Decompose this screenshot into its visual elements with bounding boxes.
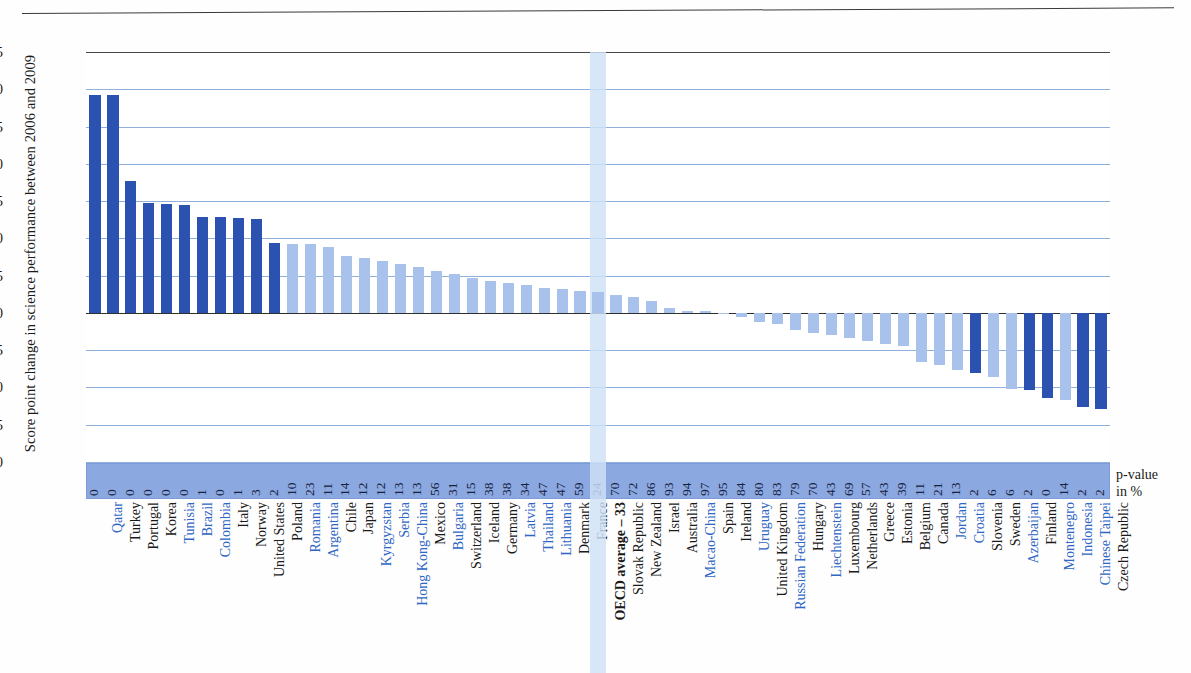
category-label-new-zealand: New Zealand: [649, 502, 665, 673]
p-value-montenegro: 0: [1038, 462, 1054, 496]
bar-germany: [485, 281, 496, 313]
y-tick-label--15: -15: [0, 416, 3, 433]
bar-chile: [323, 247, 334, 313]
bar-mexico: [413, 267, 424, 313]
category-label-slovenia: Slovenia: [990, 502, 1006, 673]
category-label-hungary: Hungary: [811, 502, 827, 673]
category-label-montenegro: Montenegro: [1062, 502, 1078, 673]
p-value-croatia: 13: [948, 462, 964, 496]
y-tick-label-35: 35: [0, 44, 3, 61]
bar-slovak-republic: [610, 295, 621, 313]
bar-united-kingdom: [754, 313, 765, 322]
category-label-united-kingdom: United Kingdom: [775, 502, 791, 673]
bar-spain: [700, 311, 711, 312]
p-value-brazil: 0: [176, 462, 192, 496]
p-value-bulgaria: 56: [427, 462, 443, 496]
category-label-brazil: Brazil: [200, 502, 216, 673]
p-value-greece: 57: [858, 462, 874, 496]
bar-qatar: [89, 95, 100, 313]
p-value-chile: 11: [320, 462, 336, 496]
p-value-united-kingdom: 80: [751, 462, 767, 496]
category-label-japan: Japan: [361, 502, 377, 673]
chart-plot-area: 35302520151050-5-10-15-20: [86, 52, 1110, 462]
p-value-qatar: 0: [86, 462, 102, 496]
bar-oecd-average-33: [592, 292, 603, 313]
p-value-iceland: 15: [463, 462, 479, 496]
category-label-australia: Australia: [685, 502, 701, 673]
y-tick-label-0: 0: [0, 304, 3, 321]
category-label-bulgaria: Bulgaria: [451, 502, 467, 673]
bar-poland: [269, 243, 280, 313]
bar-japan: [341, 256, 352, 313]
p-value-italy: 0: [212, 462, 228, 496]
p-value-denmark: 47: [553, 462, 569, 496]
bar-uruguay: [736, 313, 747, 317]
category-label-switzerland: Switzerland: [469, 502, 485, 673]
bar-united-states: [251, 219, 262, 313]
category-label-poland: Poland: [290, 502, 306, 673]
category-label-ireland: Ireland: [739, 502, 755, 673]
y-tick-label-5: 5: [0, 267, 3, 284]
p-value-germany: 38: [481, 462, 497, 496]
p-value-sweden: 6: [984, 462, 1000, 496]
bar-korea: [143, 203, 154, 313]
category-label-netherlands: Netherlands: [865, 502, 881, 673]
bar-russian-federation: [772, 313, 783, 324]
category-label-russian-federation: Russian Federation: [793, 502, 809, 673]
bar-greece: [862, 313, 873, 341]
y-tick-label-10: 10: [0, 230, 3, 247]
p-value-norway: 1: [230, 462, 246, 496]
category-label-lithuania: Lithuania: [559, 502, 575, 673]
p-value-hungary: 79: [787, 462, 803, 496]
category-label-croatia: Croatia: [972, 502, 988, 673]
bar-bulgaria: [431, 271, 442, 313]
bar-canada: [916, 313, 927, 362]
p-value-finland: 2: [1020, 462, 1036, 496]
bar-romania: [287, 244, 298, 313]
p-value-belgium: 39: [894, 462, 910, 496]
p-value-estonia: 43: [876, 462, 892, 496]
bar-latvia: [503, 283, 514, 313]
p-value-mexico: 13: [409, 462, 425, 496]
category-label-belgium: Belgium: [918, 502, 934, 673]
figure-top-rule: [22, 7, 1174, 14]
bar-indonesia: [1060, 313, 1071, 400]
p-value-new-zealand: 72: [625, 462, 641, 496]
p-value-japan: 14: [337, 462, 353, 496]
p-value-uruguay: 84: [733, 462, 749, 496]
category-label-oecd-average-33: OECD average – 33: [613, 502, 629, 673]
p-value-indonesia: 14: [1056, 462, 1072, 496]
category-label-kyrgyzstan: Kyrgyzstan: [379, 502, 395, 673]
p-value-switzerland: 31: [445, 462, 461, 496]
bar-brazil: [179, 205, 190, 313]
bar-czech-republic: [1095, 313, 1106, 409]
bar-switzerland: [449, 274, 460, 313]
y-tick-label--5: -5: [0, 342, 3, 359]
p-value-slovak-republic: 70: [607, 462, 623, 496]
p-value-turkey: 0: [104, 462, 120, 496]
bar-montenegro: [1042, 313, 1053, 398]
category-label-romania: Romania: [308, 502, 324, 673]
p-value-russian-federation: 83: [769, 462, 785, 496]
p-value-australia: 93: [661, 462, 677, 496]
bar-liechtenstein: [808, 313, 819, 333]
category-label-chile: Chile: [344, 502, 360, 673]
category-label-israel: Israel: [667, 502, 683, 673]
p-value-netherlands: 69: [841, 462, 857, 496]
y-axis-title: Score point change in science performanc…: [22, 39, 39, 469]
category-label-uruguay: Uruguay: [757, 502, 773, 673]
category-label-sweden: Sweden: [1008, 502, 1024, 673]
p-value-thailand: 34: [517, 462, 533, 496]
p-value-legend: p-value in %: [1116, 466, 1158, 500]
y-tick-label--20: -20: [0, 454, 3, 471]
bar-ireland: [718, 313, 729, 314]
bar-azerbaijan: [1006, 313, 1017, 389]
bar-belgium: [898, 313, 909, 347]
bar-colombia: [197, 217, 208, 313]
bar-netherlands: [844, 313, 855, 338]
bar-macao-china: [682, 311, 693, 313]
category-label-estonia: Estonia: [900, 502, 916, 673]
p-value-portugal: 0: [122, 462, 138, 496]
p-value-serbia: 12: [373, 462, 389, 496]
category-label-argentina: Argentina: [326, 502, 342, 673]
